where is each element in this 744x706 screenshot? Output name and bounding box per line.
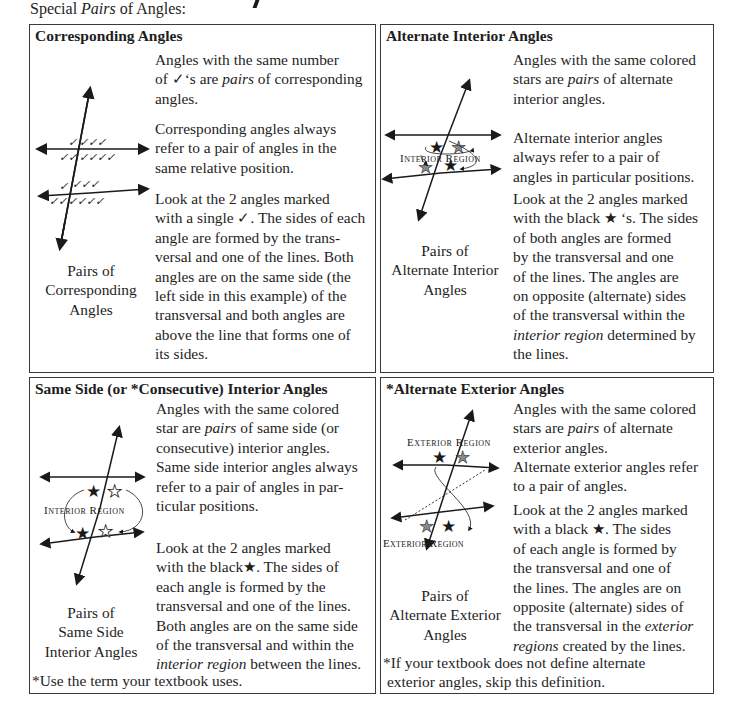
svg-text:✓✓✓: ✓✓✓: [79, 136, 107, 148]
cell-title: Corresponding Angles: [35, 27, 182, 45]
svg-text:✓✓: ✓✓: [49, 195, 68, 207]
footnote: *Use the term your textbook uses.: [32, 671, 242, 690]
definition-paragraph: Angles with the same colored stars are p…: [513, 399, 696, 457]
cell-alternate-interior-angles: Alternate Interior Angles ★ ★ ★ ★ Interi…: [380, 24, 714, 373]
svg-text:✓✓: ✓✓: [59, 151, 78, 163]
cropped-arrow-mark: [253, 0, 260, 8]
check-marks: ✓ ✓✓✓ ✓✓ ✓✓✓✓ ✓ ✓✓✓ ✓✓ ✓✓✓✓: [49, 136, 116, 207]
black-star-icon: ★: [441, 517, 456, 536]
cell-title: *Alternate Exterior Angles: [386, 380, 564, 398]
svg-text:✓: ✓: [59, 180, 69, 192]
svg-text:✓✓✓✓: ✓✓✓✓: [68, 195, 105, 207]
footnote: *If your textbook does not define altern…: [383, 653, 645, 692]
svg-text:✓✓✓✓: ✓✓✓✓: [79, 151, 116, 163]
white-star-icon: ★: [98, 522, 113, 541]
diagram-caption: Pairs of Corresponding Angles: [30, 261, 152, 319]
diagram-caption: Pairs of Alternate Interior Angles: [381, 241, 509, 299]
position-paragraph: Corresponding angles always refer to a p…: [155, 119, 337, 177]
position-paragraph: Alternate interior angles always refer t…: [513, 128, 694, 186]
exterior-region-label-top: Exterior Region: [407, 436, 491, 448]
position-paragraph: Alternate exterior angles refer to a pai…: [513, 457, 698, 496]
explanation-paragraph: Look at the 2 angles marked with the bla…: [156, 538, 361, 674]
interior-region-label: Interior Region: [44, 504, 125, 516]
gray-star-icon: ★: [455, 448, 470, 467]
diagram-caption: Pairs of Alternate Exterior Angles: [381, 586, 509, 644]
page-title: Special Pairs of Angles:: [30, 0, 186, 18]
definition-paragraph: Angles with the same colored stars are p…: [513, 50, 696, 108]
same-side-interior-angles-diagram: ★ ★ ★ ★ Interior Region: [30, 418, 155, 598]
gray-star-icon: ★: [419, 517, 434, 536]
white-star-icon: ★: [107, 482, 122, 501]
interior-region-label: Interior Region: [400, 152, 481, 164]
definition-paragraph: Angles with the same number of ✓‘s are p…: [155, 50, 362, 108]
cell-same-side-interior-angles: Same Side (or *Consecutive) Interior Ang…: [29, 377, 376, 694]
diagram-caption: Pairs of Same Side Interior Angles: [30, 603, 152, 661]
cell-title: Alternate Interior Angles: [386, 27, 553, 45]
alternate-exterior-angles-diagram: ★ ★ ★ ★ Exterior Region Exterior Region: [381, 400, 509, 575]
svg-text:✓: ✓: [68, 136, 78, 148]
corresponding-angles-diagram: ✓ ✓✓✓ ✓✓ ✓✓✓✓ ✓ ✓✓✓ ✓✓ ✓✓✓✓: [30, 81, 155, 256]
explanation-paragraph: Look at the 2 angles marked with a black…: [513, 500, 693, 655]
cell-alternate-exterior-angles: *Alternate Exterior Angles ★ ★ ★ ★ Exter…: [380, 377, 714, 694]
explanation-paragraph: Look at the 2 angles marked with the bla…: [513, 189, 698, 364]
black-star-icon: ★: [432, 448, 447, 467]
exterior-region-label-bottom: Exterior Region: [383, 537, 464, 549]
explanation-paragraph: Look at the 2 angles marked with a singl…: [155, 189, 365, 364]
alternate-interior-angles-diagram: ★ ★ ★ ★ Interior Region: [381, 69, 509, 244]
svg-text:✓✓✓: ✓✓✓: [72, 178, 100, 190]
cell-title: Same Side (or *Consecutive) Interior Ang…: [35, 380, 328, 398]
black-star-icon: ★: [75, 524, 90, 543]
cell-corresponding-angles: Corresponding Angles ✓ ✓✓✓ ✓✓ ✓✓✓✓ ✓ ✓✓✓…: [29, 24, 376, 373]
black-star-icon: ★: [86, 482, 101, 501]
definition-paragraph: Angles with the same colored star are pa…: [156, 399, 358, 515]
